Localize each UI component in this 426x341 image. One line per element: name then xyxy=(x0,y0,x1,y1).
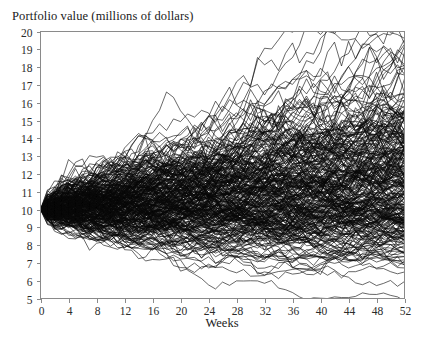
x-tick-label: 28 xyxy=(232,305,244,317)
simulation-paths-group xyxy=(41,24,405,300)
x-tick-label: 20 xyxy=(176,305,188,317)
y-axis-tick-labels: 567891011121314151617181920 xyxy=(21,27,33,306)
portfolio-value-line-chart: 0481216202428323640444852 56789101112131… xyxy=(0,0,426,341)
y-tick-label: 11 xyxy=(21,187,32,199)
y-tick-label: 9 xyxy=(27,222,33,234)
y-tick-label: 14 xyxy=(21,133,33,145)
y-tick-label: 6 xyxy=(27,276,33,288)
y-tick-label: 5 xyxy=(27,294,33,306)
y-tick-label: 16 xyxy=(21,98,33,110)
x-axis-tick-labels: 0481216202428323640444852 xyxy=(39,305,412,317)
x-tick-label: 24 xyxy=(204,305,216,317)
y-tick-label: 17 xyxy=(21,80,33,92)
x-tick-label: 32 xyxy=(260,305,272,317)
x-tick-label: 0 xyxy=(39,305,45,317)
y-tick-label: 10 xyxy=(21,205,33,217)
x-tick-label: 4 xyxy=(67,305,73,317)
x-tick-label: 12 xyxy=(120,305,132,317)
x-tick-label: 8 xyxy=(95,305,101,317)
x-axis-ticks xyxy=(42,299,406,303)
y-tick-label: 13 xyxy=(21,151,33,163)
chart-container: Portfolio value (millions of dollars) 04… xyxy=(0,0,426,341)
y-tick-label: 18 xyxy=(21,62,33,74)
x-tick-label: 36 xyxy=(288,305,300,317)
y-tick-label: 7 xyxy=(27,258,33,270)
y-axis-ticks xyxy=(37,33,41,300)
x-axis-title: Weeks xyxy=(205,316,238,330)
x-tick-label: 52 xyxy=(400,305,412,317)
y-tick-label: 19 xyxy=(21,44,33,56)
x-tick-label: 48 xyxy=(372,305,384,317)
y-tick-label: 12 xyxy=(21,169,33,181)
y-tick-label: 20 xyxy=(21,27,33,39)
x-tick-label: 44 xyxy=(344,305,356,317)
x-tick-label: 40 xyxy=(316,305,328,317)
x-tick-label: 16 xyxy=(148,305,160,317)
y-tick-label: 15 xyxy=(21,116,33,128)
y-tick-label: 8 xyxy=(27,240,33,252)
